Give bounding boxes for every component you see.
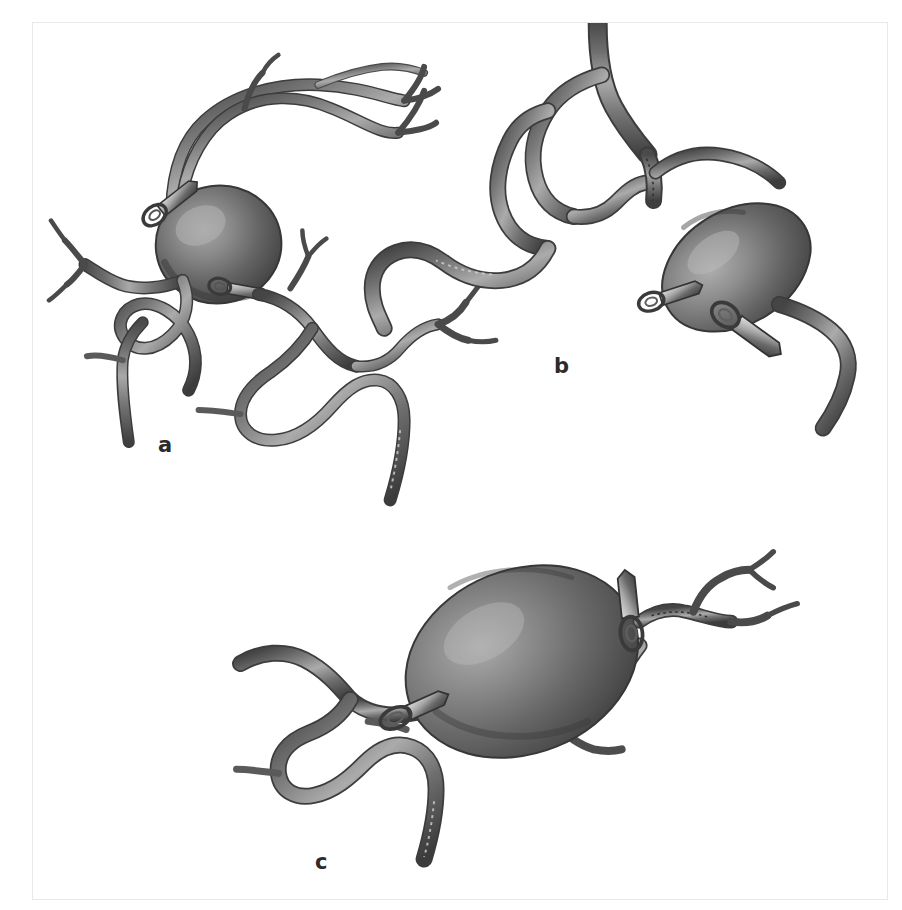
panel-c-illustration [237, 532, 798, 860]
figure-root: a b c [0, 0, 902, 910]
panel-label-c: c [315, 852, 327, 873]
panel-label-b: b [554, 356, 569, 377]
medical-illustration-canvas [33, 23, 887, 899]
figure-frame: a b c [32, 22, 888, 900]
panel-label-a: a [158, 435, 172, 456]
panel-a-illustration [49, 55, 496, 500]
panel-b-illustration [372, 23, 848, 428]
